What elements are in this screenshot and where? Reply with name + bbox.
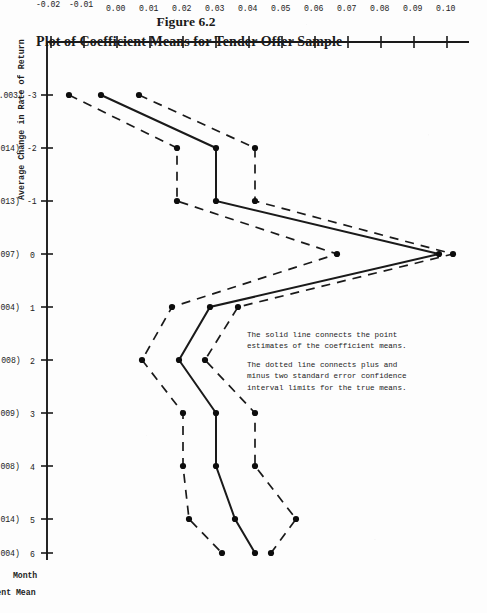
value-tick-label: 0.05	[271, 4, 290, 13]
coefficient-value: (0.014)	[0, 515, 20, 524]
value-axis-title: Average Change in Rate of Return	[17, 39, 27, 200]
month-tick-label: 1	[30, 304, 35, 313]
value-tick-label: 0.06	[304, 4, 323, 13]
series-upper-ci-markers	[136, 92, 456, 556]
coefficient-value: (0.004)	[0, 549, 20, 558]
value-tick-label: -0.02	[36, 0, 60, 9]
month-tick-label: 4	[30, 463, 35, 472]
value-tick-label: -0.01	[69, 0, 93, 9]
note-solid-line: The solid line connects the point estima…	[247, 330, 407, 353]
series-lower-ci	[69, 95, 337, 553]
coefficient-value: (0.097)	[0, 250, 20, 259]
coefficient-value: (0.004)	[0, 303, 20, 312]
value-tick-label: 0.01	[139, 4, 158, 13]
series-lower-ci-markers	[66, 92, 340, 556]
value-tick-label: 0.09	[403, 4, 422, 13]
month-tick-label: 0	[30, 251, 35, 260]
value-tick-label: 0.02	[172, 4, 191, 13]
value-tick-label: 0.00	[106, 4, 125, 13]
value-tick-label: 0.07	[337, 4, 356, 13]
month-tick-label: -3	[27, 91, 37, 100]
month-tick-label: 3	[30, 410, 35, 419]
value-tick-label: 0.10	[436, 4, 455, 13]
month-tick-label: 2	[30, 357, 35, 366]
rotated-plot-wrapper: 0.10 0.09 0.08 0.07 0.06 0.05 0.04 0.03 …	[0, 0, 487, 613]
coefficient-value: (0.008)	[0, 462, 20, 471]
value-tick-label: 0.08	[370, 4, 389, 13]
month-tick-label: -1	[27, 197, 37, 206]
document-page: Figure 6.2 Plot of Coefficient Means for…	[0, 0, 487, 613]
value-tick-label: 0.04	[238, 4, 257, 13]
chart-plot-area: 0.10 0.09 0.08 0.07 0.06 0.05 0.04 0.03 …	[0, 0, 487, 613]
coefficient-value: (0.009)	[0, 409, 20, 418]
coefficient-row-title: Value of Coefficient Mean	[0, 575, 36, 600]
month-tick-label: 5	[30, 516, 35, 525]
month-tick-label: -2	[27, 144, 37, 153]
month-tick-label: 6	[30, 550, 35, 559]
series-upper-ci	[139, 95, 453, 553]
value-tick-label: 0.03	[205, 4, 224, 13]
coefficient-value: (-0.008)	[0, 356, 21, 365]
chart-svg	[0, 0, 487, 613]
note-dotted-line: The dotted line connects plus and minus …	[247, 360, 407, 394]
